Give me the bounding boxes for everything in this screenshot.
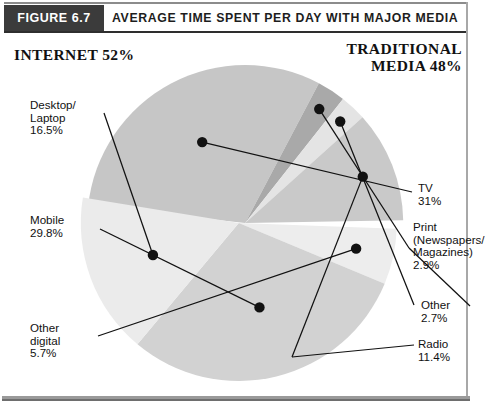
label-radio: Radio 11.4% (418, 338, 450, 363)
leader-dot (358, 171, 368, 181)
label-tv: TV 31% (418, 182, 441, 207)
label-mobile: Mobile 29.8% (30, 214, 64, 239)
leader-dot (197, 137, 207, 147)
label-other: Other 2.7% (421, 299, 450, 324)
pie-slice-group (81, 65, 403, 381)
leader-dot (351, 243, 361, 253)
leader-dot (314, 104, 324, 114)
leader-dot (335, 116, 345, 126)
label-other-digital: Other digital 5.7% (30, 322, 60, 360)
leader-dot (148, 250, 158, 260)
label-print: Print (Newspapers/ Magazines) 2.9% (413, 221, 485, 271)
label-desktop-laptop: Desktop/ Laptop 16.5% (30, 99, 76, 137)
leader-dot (254, 302, 264, 312)
